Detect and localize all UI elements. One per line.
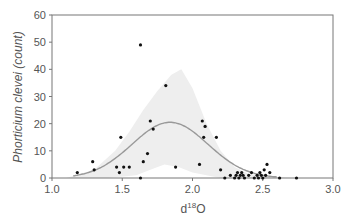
y-tick-label: 50 xyxy=(34,36,46,48)
x-tick-label: 1.0 xyxy=(44,183,59,195)
data-point xyxy=(260,174,263,177)
y-axis-ticks: 0102030405060 xyxy=(34,9,52,184)
data-point xyxy=(239,174,242,177)
x-axis-ticks: 1.01.52.02.53.0 xyxy=(44,178,340,195)
x-tick-label: 1.5 xyxy=(115,183,130,195)
data-point xyxy=(295,176,298,179)
data-point xyxy=(253,176,256,179)
data-point xyxy=(256,174,259,177)
data-point xyxy=(149,119,152,122)
data-point xyxy=(119,136,122,139)
data-point xyxy=(236,171,239,174)
data-point xyxy=(263,168,266,171)
data-point xyxy=(128,166,131,169)
data-point xyxy=(139,176,142,179)
data-point xyxy=(233,176,236,179)
data-point xyxy=(229,174,232,177)
data-point xyxy=(76,171,79,174)
data-point xyxy=(146,152,149,155)
data-point xyxy=(243,176,246,179)
data-point xyxy=(264,174,267,177)
y-axis-title: Phorticium clevei (count) xyxy=(11,31,25,162)
data-point xyxy=(115,166,118,169)
data-point xyxy=(91,160,94,163)
x-tick-label: 2.5 xyxy=(255,183,270,195)
y-tick-label: 20 xyxy=(34,118,46,130)
data-point xyxy=(201,119,204,122)
data-point xyxy=(235,174,238,177)
data-point xyxy=(142,160,145,163)
y-tick-label: 40 xyxy=(34,63,46,75)
data-point xyxy=(152,128,155,131)
x-tick-label: 2.0 xyxy=(185,183,200,195)
data-point xyxy=(174,166,177,169)
x-axis-title: d18O xyxy=(181,201,206,216)
data-point xyxy=(122,166,125,169)
data-point xyxy=(237,176,240,179)
data-point xyxy=(258,171,261,174)
data-point xyxy=(202,136,205,139)
data-point xyxy=(223,176,226,179)
data-point xyxy=(257,176,260,179)
data-point xyxy=(265,163,268,166)
x-tick-label: 3.0 xyxy=(325,183,340,195)
data-point xyxy=(93,168,96,171)
data-point xyxy=(261,176,264,179)
data-point xyxy=(219,168,222,171)
data-point xyxy=(164,84,167,87)
y-tick-label: 30 xyxy=(34,91,46,103)
x-axis-title-main: d xyxy=(181,202,188,216)
data-point xyxy=(118,171,121,174)
scatter-chart: 0102030405060 1.01.52.02.53.0 Phorticium… xyxy=(0,0,356,223)
y-tick-label: 10 xyxy=(34,145,46,157)
x-axis-title-tail: O xyxy=(196,202,205,216)
data-point xyxy=(240,171,243,174)
data-point xyxy=(139,43,142,46)
data-point xyxy=(215,136,218,139)
data-point xyxy=(278,176,281,179)
y-tick-label: 60 xyxy=(34,9,46,21)
data-point xyxy=(268,171,271,174)
data-point xyxy=(250,171,253,174)
data-point xyxy=(247,174,250,177)
data-point xyxy=(242,174,245,177)
data-point xyxy=(204,125,207,128)
data-point xyxy=(198,163,201,166)
